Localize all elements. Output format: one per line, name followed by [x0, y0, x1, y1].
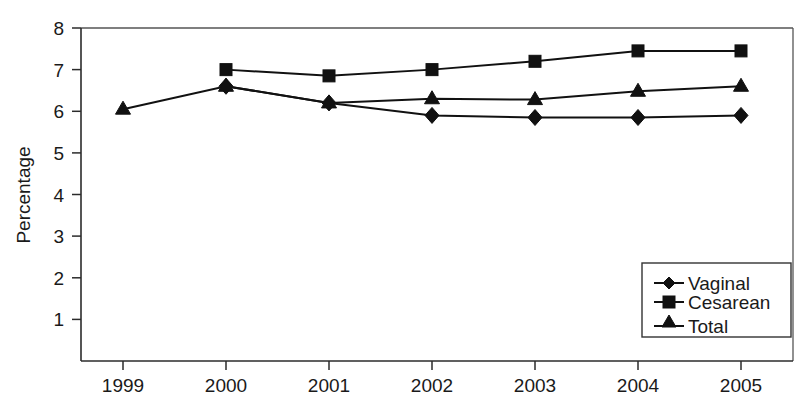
triangle-marker-icon [528, 92, 543, 105]
legend-label-vaginal: Vaginal [688, 273, 750, 294]
y-tick-label-8: 8 [53, 18, 64, 39]
y-tick-label-4: 4 [53, 185, 64, 206]
square-marker-icon [735, 45, 747, 57]
y-tick-label-5: 5 [53, 143, 64, 164]
series-cesarean [220, 45, 747, 82]
y-axis-title: Percentage [13, 146, 34, 243]
square-marker-icon [529, 55, 541, 67]
series-line-cesarean [226, 51, 741, 76]
y-tick-label-3: 3 [53, 226, 64, 247]
y-tick-label-7: 7 [53, 60, 64, 81]
y-tick-label-1: 1 [53, 309, 64, 330]
line-chart: 8 7 6 5 4 3 2 1 Percentage 1999 2000 200… [0, 0, 811, 417]
triangle-marker-icon [734, 78, 749, 91]
diamond-marker-icon [631, 109, 645, 125]
square-marker-icon [220, 64, 232, 76]
legend-label-total: Total [688, 316, 728, 337]
x-tick-label-2000: 2000 [205, 375, 247, 396]
square-marker-icon [426, 64, 438, 76]
diamond-marker-icon [425, 107, 439, 123]
y-tick-label-6: 6 [53, 101, 64, 122]
x-axis: 1999 2000 2001 2002 2003 2004 2005 [81, 361, 793, 396]
series-vaginal [219, 78, 748, 125]
square-marker-icon [632, 45, 644, 57]
chart-legend: Vaginal Cesarean Total [642, 263, 791, 337]
data-series-layer [116, 45, 749, 126]
square-marker-icon [323, 70, 335, 82]
y-tick-label-2: 2 [53, 268, 64, 289]
diamond-marker-icon [528, 109, 542, 125]
triangle-marker-icon [425, 91, 440, 104]
x-tick-label-2001: 2001 [308, 375, 350, 396]
x-tick-label-2005: 2005 [720, 375, 762, 396]
x-tick-label-2002: 2002 [411, 375, 453, 396]
legend-label-cesarean: Cesarean [688, 292, 770, 313]
y-axis: 8 7 6 5 4 3 2 1 Percentage [13, 18, 81, 361]
x-tick-label-1999: 1999 [102, 375, 144, 396]
x-tick-label-2004: 2004 [617, 375, 660, 396]
diamond-marker-icon [734, 107, 748, 123]
triangle-marker-icon [631, 83, 646, 96]
chart-figure: 8 7 6 5 4 3 2 1 Percentage 1999 2000 200… [0, 0, 811, 417]
x-tick-label-2003: 2003 [514, 375, 556, 396]
